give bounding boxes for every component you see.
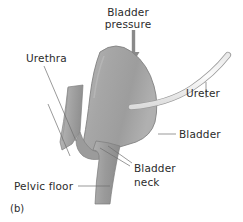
ureter-label: Ureter bbox=[186, 87, 221, 99]
bladder-neck-label-line2: neck bbox=[134, 176, 160, 188]
pelvic-floor-label: Pelvic floor bbox=[14, 180, 74, 192]
pelvic-floor-structure bbox=[93, 141, 120, 204]
bladder-pressure-label-line2: pressure bbox=[105, 18, 152, 30]
anatomy-illustration: Bladder pressure Urethra Ureter Bladder … bbox=[0, 0, 243, 222]
bladder-label: Bladder bbox=[179, 128, 221, 140]
panel-label: (b) bbox=[10, 203, 24, 214]
bladder-neck-label-line1: Bladder bbox=[134, 162, 176, 174]
bladder-anatomy-figure: Bladder pressure Urethra Ureter Bladder … bbox=[0, 0, 243, 222]
urethra-label: Urethra bbox=[26, 52, 67, 64]
bladder-organ bbox=[84, 46, 157, 152]
bladder-pressure-label-line1: Bladder bbox=[107, 6, 149, 18]
